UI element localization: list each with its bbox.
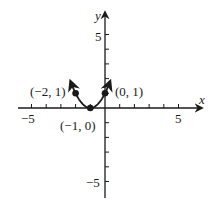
y-tick-label-neg5: −5 xyxy=(86,175,100,190)
x-tick-label-neg5: −5 xyxy=(21,111,35,126)
x-axis-label: x xyxy=(198,92,205,107)
parabola-graph: x y −5 5 5 −5 (−2, 1) (−1, 0) (0, 1) xyxy=(0,0,215,208)
y-axis-label: y xyxy=(93,8,101,23)
data-point xyxy=(72,90,79,97)
data-point xyxy=(87,105,94,112)
point-label-0-1: (0, 1) xyxy=(115,84,143,99)
data-point xyxy=(102,90,109,97)
point-label-neg1-0: (−1, 0) xyxy=(60,118,96,133)
x-tick-label-5: 5 xyxy=(175,111,182,126)
point-label-neg2-1: (−2, 1) xyxy=(30,84,66,99)
y-tick-label-5: 5 xyxy=(95,29,102,44)
